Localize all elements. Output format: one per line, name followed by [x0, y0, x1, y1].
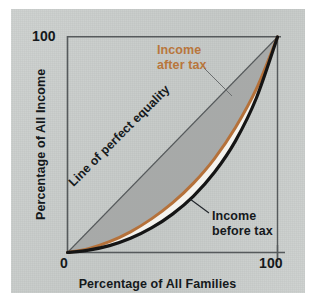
annotation-after-tax-line1: Income [157, 43, 207, 58]
x-axis-tick-0: 0 [60, 255, 68, 272]
x-axis-tick-100: 100 [259, 255, 283, 272]
annotation-after-tax-line2: after tax [157, 58, 207, 73]
x-axis-title: Percentage of All Families [0, 277, 315, 292]
annotation-before-tax-line2: before tax [212, 224, 273, 239]
y-axis-title: Percentage of All Income [34, 24, 49, 264]
leader-line-before-tax [190, 199, 209, 213]
leader-line-after-tax [204, 68, 232, 96]
annotation-income-before-tax: Income before tax [212, 209, 273, 239]
lorenz-curve-figure: 100 0 100 Percentage of All Families Per… [0, 0, 315, 307]
annotation-income-after-tax: Income after tax [157, 43, 207, 73]
annotation-before-tax-line1: Income [212, 209, 273, 224]
